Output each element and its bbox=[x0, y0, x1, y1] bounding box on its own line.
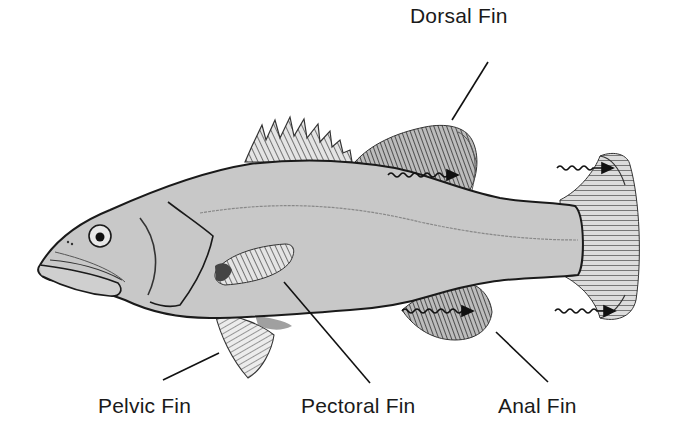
label-anal-fin: Anal Fin bbox=[498, 394, 577, 418]
leader-line-anal bbox=[496, 332, 548, 382]
leader-line-dorsal bbox=[452, 62, 488, 120]
label-dorsal-fin: Dorsal Fin bbox=[410, 4, 508, 28]
motion-arrow-caudal-bottom bbox=[555, 306, 615, 316]
label-pelvic-fin: Pelvic Fin bbox=[98, 394, 191, 418]
fish-diagram bbox=[0, 0, 681, 443]
fish-body bbox=[38, 161, 583, 318]
spiny-dorsal-fin bbox=[245, 117, 352, 162]
leader-line-pelvic bbox=[163, 353, 219, 380]
pelvic-fin bbox=[215, 313, 292, 378]
motion-arrow-caudal-top bbox=[557, 163, 613, 173]
label-pectoral-fin: Pectoral Fin bbox=[301, 394, 415, 418]
